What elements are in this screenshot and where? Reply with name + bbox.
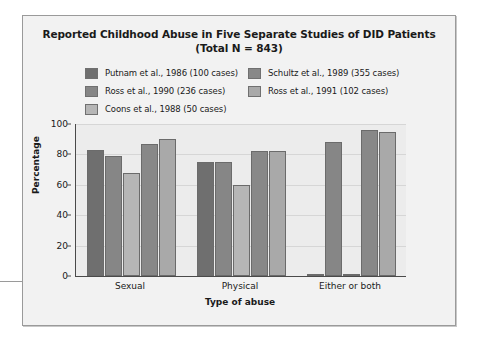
bar [251, 151, 268, 276]
bar [325, 142, 342, 276]
legend-item: Ross et al., 1990 (236 cases) [85, 83, 225, 99]
y-axis-tick-mark [67, 184, 71, 185]
plot-wrapper: Percentage 020406080100 Type of abuse Se… [23, 124, 455, 327]
bar [233, 185, 250, 276]
chart-title-line-1: Reported Childhood Abuse in Five Separat… [23, 27, 455, 41]
y-axis-ticks: 020406080100 [41, 124, 71, 276]
bar [197, 162, 214, 276]
legend-swatch-icon [85, 68, 98, 79]
bar-group [296, 124, 406, 276]
y-axis-tick-mark [67, 124, 71, 125]
bar [379, 132, 396, 276]
x-axis-tick-label: Physical [222, 281, 259, 291]
plot-area [75, 124, 406, 277]
legend-item-label: Putnam et al., 1986 (100 cases) [105, 68, 238, 78]
bar [105, 156, 122, 276]
bar [87, 150, 104, 276]
bar [361, 130, 378, 276]
legend-swatch-icon [85, 86, 98, 97]
y-axis-tick-mark [67, 215, 71, 216]
x-axis-tick-label: Either or both [319, 281, 381, 291]
y-axis-tick-mark [67, 154, 71, 155]
legend-item-label: Schultz et al., 1989 (355 cases) [268, 68, 399, 78]
bar [307, 274, 324, 276]
chart-legend: Putnam et al., 1986 (100 cases)Ross et a… [85, 65, 415, 121]
figure-frame: Reported Childhood Abuse in Five Separat… [22, 15, 456, 326]
legend-item-label: Ross et al., 1990 (236 cases) [105, 86, 225, 96]
bar-group [76, 124, 186, 276]
bar [215, 162, 232, 276]
x-axis-tick-label: Sexual [115, 281, 145, 291]
legend-item-label: Ross et al., 1991 (102 cases) [268, 86, 388, 96]
y-axis-tick-mark [67, 245, 71, 246]
legend-item: Coons et al., 1988 (50 cases) [85, 101, 226, 117]
bar [269, 151, 286, 276]
legend-item: Schultz et al., 1989 (355 cases) [248, 65, 399, 81]
bar-group [186, 124, 296, 276]
bar [123, 173, 140, 276]
page-rule-artifact [0, 281, 24, 282]
legend-swatch-icon [85, 104, 98, 115]
chart-title: Reported Childhood Abuse in Five Separat… [23, 27, 455, 55]
legend-swatch-icon [248, 68, 261, 79]
x-axis-label: Type of abuse [75, 297, 405, 307]
bar [343, 274, 360, 276]
y-axis-label: Percentage [31, 180, 41, 194]
legend-swatch-icon [248, 86, 261, 97]
bar [141, 144, 158, 276]
legend-item: Putnam et al., 1986 (100 cases) [85, 65, 238, 81]
legend-item-label: Coons et al., 1988 (50 cases) [105, 104, 226, 114]
bar [159, 139, 176, 276]
y-axis-tick-mark [67, 276, 71, 277]
y-axis-tick-label: 100 [51, 119, 68, 129]
chart-title-line-2: (Total N = 843) [23, 41, 455, 55]
legend-item: Ross et al., 1991 (102 cases) [248, 83, 388, 99]
